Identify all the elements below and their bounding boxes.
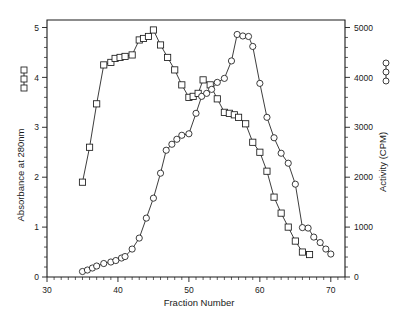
x-axis-tick-labels: 3040506070 <box>42 285 336 295</box>
x-tick-label: 70 <box>326 285 336 295</box>
circle-data-marker <box>136 235 142 241</box>
series-polyline <box>82 30 309 255</box>
circle-data-marker <box>163 147 169 153</box>
square-data-marker <box>264 168 270 174</box>
circle-data-marker <box>169 141 175 147</box>
right-y-tick-label: 4000 <box>354 73 373 83</box>
x-axis-title: Fraction Number <box>164 297 235 308</box>
left-y-tick-label: 0 <box>34 272 39 282</box>
square-data-marker <box>94 101 100 107</box>
square-marker-legend <box>21 67 27 91</box>
legend-circle-marker <box>383 60 389 66</box>
left-y-tick-label: 2 <box>34 172 39 182</box>
x-tick-label: 50 <box>184 285 194 295</box>
circle-data-marker <box>234 31 240 37</box>
x-axis-ticks <box>47 277 345 282</box>
left-y-axis-tick-labels: 012345 <box>34 23 39 283</box>
square-data-marker <box>172 67 178 73</box>
square-data-marker <box>243 121 249 127</box>
circle-data-marker <box>186 131 192 137</box>
series-polyline <box>82 34 330 271</box>
circle-data-marker <box>328 251 334 257</box>
circle-data-marker <box>311 234 317 240</box>
left-y-tick-label: 1 <box>34 222 39 232</box>
circle-data-marker <box>214 79 220 85</box>
square-data-marker <box>306 251 312 257</box>
left-y-axis-ticks <box>42 27 47 277</box>
circle-data-marker <box>228 58 234 64</box>
right-y-tick-label: 3000 <box>354 122 373 132</box>
chromatography-chart-figure: 3040506070 012345 010002000300040005000 … <box>0 0 399 321</box>
circle-data-marker <box>101 260 107 266</box>
circle-data-marker <box>323 246 329 252</box>
square-data-marker <box>299 249 305 255</box>
square-data-marker <box>200 77 206 83</box>
circle-data-marker <box>129 246 135 252</box>
left-y-tick-label: 4 <box>34 73 39 83</box>
square-data-marker <box>278 210 284 216</box>
square-data-marker <box>157 42 163 48</box>
legend-square-marker <box>21 76 27 82</box>
circle-data-marker <box>264 114 270 120</box>
circle-data-marker <box>122 253 128 259</box>
legend-square-marker <box>21 85 27 91</box>
x-tick-label: 40 <box>113 285 123 295</box>
left-y-axis-title: Absorbance at 280nm <box>15 128 26 221</box>
x-tick-label: 60 <box>255 285 265 295</box>
circle-data-marker <box>305 225 311 231</box>
series-absorbance <box>79 27 312 258</box>
circle-data-marker <box>257 80 263 86</box>
circle-data-marker <box>240 33 246 39</box>
left-y-tick-label: 5 <box>34 23 39 33</box>
square-data-marker <box>250 139 256 145</box>
circle-data-marker <box>317 239 323 245</box>
right-y-tick-label: 0 <box>354 272 359 282</box>
square-data-marker <box>150 27 156 33</box>
circle-data-marker <box>150 195 156 201</box>
square-data-marker <box>257 149 263 155</box>
right-y-tick-label: 1000 <box>354 222 373 232</box>
data-series-layer <box>79 27 334 275</box>
legend-circle-marker <box>383 78 389 84</box>
circle-data-marker <box>271 135 277 141</box>
square-data-marker <box>179 82 185 88</box>
right-y-tick-label: 2000 <box>354 172 373 182</box>
legend-square-marker <box>21 67 27 73</box>
chart-canvas: 3040506070 012345 010002000300040005000 … <box>0 0 399 321</box>
square-data-marker <box>165 54 171 60</box>
circle-data-marker <box>193 110 199 116</box>
x-tick-label: 30 <box>42 285 52 295</box>
square-data-marker <box>214 96 220 102</box>
circle-data-marker <box>299 224 305 230</box>
circle-data-marker <box>209 86 215 92</box>
right-y-axis-title: Activity (CPM) <box>377 132 388 192</box>
circle-data-marker <box>285 160 291 166</box>
square-data-marker <box>292 238 298 244</box>
circle-data-marker <box>292 181 298 187</box>
square-data-marker <box>285 224 291 230</box>
square-data-marker <box>86 144 92 150</box>
circle-marker-legend <box>383 60 389 84</box>
square-data-marker <box>271 194 277 200</box>
square-data-marker <box>235 114 241 120</box>
circle-data-marker <box>221 75 227 81</box>
square-data-marker <box>122 53 128 59</box>
circle-data-marker <box>157 170 163 176</box>
left-y-tick-label: 3 <box>34 122 39 132</box>
square-data-marker <box>129 52 135 58</box>
right-y-tick-label: 5000 <box>354 23 373 33</box>
circle-data-marker <box>278 150 284 156</box>
circle-data-marker <box>245 33 251 39</box>
square-data-marker <box>79 179 85 185</box>
legend-circle-marker <box>383 69 389 75</box>
circle-data-marker <box>143 215 149 221</box>
circle-data-marker <box>250 43 256 49</box>
square-data-marker <box>145 33 151 39</box>
right-y-axis-ticks <box>345 27 350 277</box>
right-y-axis-tick-labels: 010002000300040005000 <box>354 23 373 283</box>
square-data-marker <box>101 62 107 68</box>
circle-data-marker <box>179 132 185 138</box>
circle-data-marker <box>94 263 100 269</box>
